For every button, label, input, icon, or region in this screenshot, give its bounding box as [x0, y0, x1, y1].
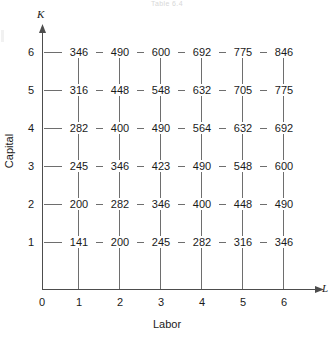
node-L1-K2: 200: [62, 198, 96, 210]
y-tick-5: 5: [22, 84, 40, 96]
x-tick-0: 0: [33, 296, 51, 308]
node-L4-K6: 692: [185, 46, 219, 58]
node-L3-K4: 490: [144, 122, 178, 134]
node-L3-K5: 548: [144, 84, 178, 96]
y-axis-symbol: K: [37, 8, 44, 20]
x-axis-symbol: L: [322, 282, 328, 294]
node-L3-K6: 600: [144, 46, 178, 58]
node-L4-K2: 400: [185, 198, 219, 210]
node-L4-K5: 632: [185, 84, 219, 96]
x-tick-6: 6: [275, 296, 293, 308]
node-L4-K1: 282: [185, 236, 219, 248]
node-L1-K1: 141: [62, 236, 96, 248]
node-L6-K1: 346: [267, 236, 301, 248]
node-L6-K2: 490: [267, 198, 301, 210]
node-L1-K5: 316: [62, 84, 96, 96]
node-L2-K4: 400: [103, 122, 137, 134]
node-L2-K1: 200: [103, 236, 137, 248]
node-L5-K3: 548: [226, 160, 260, 172]
x-tick-5: 5: [234, 296, 252, 308]
node-L6-K6: 846: [267, 46, 301, 58]
node-L5-K6: 775: [226, 46, 260, 58]
node-L3-K1: 245: [144, 236, 178, 248]
node-L2-K6: 490: [103, 46, 137, 58]
node-L1-K6: 346: [62, 46, 96, 58]
node-L5-K5: 705: [226, 84, 260, 96]
node-L6-K4: 692: [267, 122, 301, 134]
node-L2-K5: 448: [103, 84, 137, 96]
node-L5-K1: 316: [226, 236, 260, 248]
node-L2-K3: 346: [103, 160, 137, 172]
node-L1-K3: 245: [62, 160, 96, 172]
node-L2-K2: 282: [103, 198, 137, 210]
node-L3-K2: 346: [144, 198, 178, 210]
node-L5-K2: 448: [226, 198, 260, 210]
x-tick-4: 4: [193, 296, 211, 308]
x-axis-title: Labor: [0, 318, 334, 330]
x-tick-1: 1: [70, 296, 88, 308]
x-tick-3: 3: [152, 296, 170, 308]
node-L5-K4: 632: [226, 122, 260, 134]
node-L6-K3: 600: [267, 160, 301, 172]
node-L4-K4: 564: [185, 122, 219, 134]
node-L6-K5: 775: [267, 84, 301, 96]
x-tick-2: 2: [111, 296, 129, 308]
node-L4-K3: 490: [185, 160, 219, 172]
y-tick-3: 3: [22, 160, 40, 172]
y-tick-6: 6: [22, 46, 40, 58]
y-tick-4: 4: [22, 122, 40, 134]
node-L3-K3: 423: [144, 160, 178, 172]
y-axis-title: Capital: [3, 121, 15, 181]
y-tick-2: 2: [22, 198, 40, 210]
y-axis-arrow: [39, 24, 46, 33]
production-grid-figure: Table 6.4 K L 6 5 4 3 2 1 0 1 2 3: [0, 0, 334, 339]
node-L1-K4: 282: [62, 122, 96, 134]
y-tick-1: 1: [22, 236, 40, 248]
